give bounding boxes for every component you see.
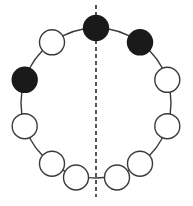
necklace-figure: [0, 0, 193, 206]
filled-bead-left-upper[interactable]: [12, 67, 37, 92]
ring-arc-10: [30, 50, 43, 68]
filled-bead-upper-right[interactable]: [128, 30, 153, 55]
ring-arc-2: [149, 50, 162, 68]
empty-bead-bottom-right-of-axis[interactable]: [105, 165, 130, 190]
ring-arc-1: [108, 29, 129, 36]
empty-bead-right-upper[interactable]: [155, 67, 180, 92]
empty-bead-bottom-left-of-axis[interactable]: [64, 165, 89, 190]
empty-bead-bottom-left[interactable]: [40, 151, 65, 176]
necklace-svg: [0, 0, 193, 206]
ring-arc-11: [63, 29, 84, 36]
ring-arc-8: [30, 138, 43, 156]
ring-arc-3: [170, 92, 171, 114]
empty-bead-left-lower[interactable]: [12, 114, 37, 139]
empty-bead-right-lower[interactable]: [155, 114, 180, 139]
empty-bead-upper-left[interactable]: [40, 30, 65, 55]
filled-bead-top[interactable]: [84, 16, 109, 41]
ring-arc-4: [149, 138, 162, 156]
ring-arc-9: [21, 92, 22, 114]
empty-bead-bottom-right[interactable]: [128, 151, 153, 176]
